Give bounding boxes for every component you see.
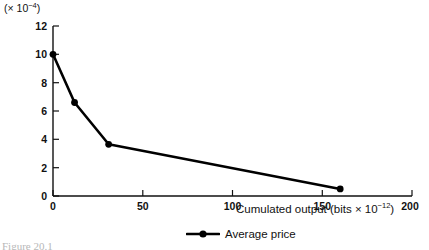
data-point	[50, 51, 57, 58]
x-tick-label-50: 50	[137, 200, 149, 212]
data-point	[337, 186, 344, 193]
data-point	[105, 141, 112, 148]
y-unit-suffix: )	[37, 2, 41, 14]
chart-legend: Average price	[186, 228, 296, 240]
y-axis-unit-label: (× 10−4)	[4, 2, 40, 14]
y-tick-label-2: 2	[41, 162, 47, 174]
y-tick-label-10: 10	[35, 48, 47, 60]
figure-caption: Figure 20.1	[2, 240, 53, 250]
x-title-prefix: Cumulated output (bits × 10	[236, 203, 378, 215]
x-tick-marks	[53, 190, 412, 196]
y-tick-label-8: 8	[41, 77, 47, 89]
y-unit-prefix: (× 10	[4, 2, 28, 14]
legend-item-label: Average price	[225, 228, 296, 240]
series-average-price	[50, 51, 344, 192]
y-tick-label-12: 12	[35, 20, 47, 32]
y-unit-exponent: −4	[28, 1, 37, 10]
y-tick-label-6: 6	[41, 105, 47, 117]
x-title-exponent: −12	[378, 201, 391, 210]
x-tick-label-200: 200	[401, 200, 419, 212]
y-tick-label-0: 0	[41, 190, 47, 202]
figure-container: 0 2 4 6 8 10 12 0 50 100 150 200 (× 10−4…	[0, 0, 429, 250]
legend-marker-icon	[186, 228, 220, 240]
y-tick-label-4: 4	[41, 133, 47, 145]
x-title-suffix: )	[390, 203, 394, 215]
data-point	[71, 99, 78, 106]
x-tick-label-0: 0	[50, 200, 56, 212]
x-axis-title: Cumulated output (bits × 10−12)	[236, 203, 394, 215]
